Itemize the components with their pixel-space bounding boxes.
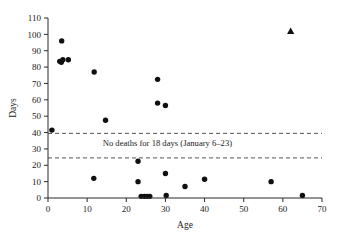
data-point — [66, 57, 71, 62]
y-tick-label-0: 0 — [37, 193, 42, 203]
x-tick-label-40: 40 — [200, 204, 210, 214]
scatter-plot-figure: 0102030405060708090100110 01020304050607… — [0, 0, 338, 248]
data-point — [49, 127, 54, 132]
y-tick-label-50: 50 — [32, 111, 42, 121]
x-axis-ticks: 010203040506070 — [46, 198, 327, 214]
data-point — [300, 193, 305, 198]
plot-canvas: 0102030405060708090100110 01020304050607… — [0, 0, 338, 248]
x-tick-label-30: 30 — [161, 204, 171, 214]
no-deaths-gap-label: No deaths for 18 days (January 6–23) — [103, 138, 232, 148]
data-point — [103, 118, 108, 123]
y-tick-label-90: 90 — [32, 46, 42, 56]
data-point-triangle — [287, 27, 294, 33]
x-tick-label-0: 0 — [46, 204, 51, 214]
y-tick-label-100: 100 — [28, 30, 42, 40]
data-point-layer — [49, 27, 305, 199]
data-point — [268, 179, 273, 184]
data-point — [163, 171, 168, 176]
x-tick-label-50: 50 — [239, 204, 249, 214]
data-point — [182, 184, 187, 189]
y-tick-label-70: 70 — [32, 79, 42, 89]
data-point — [91, 176, 96, 181]
y-tick-label-60: 60 — [32, 95, 42, 105]
figure-caption-strip — [0, 234, 338, 248]
x-tick-label-70: 70 — [318, 204, 328, 214]
y-axis-ticks: 0102030405060708090100110 — [28, 13, 49, 203]
y-tick-label-40: 40 — [32, 128, 42, 138]
y-tick-label-80: 80 — [32, 62, 42, 72]
data-point — [155, 100, 160, 105]
data-point — [60, 57, 65, 62]
x-tick-label-60: 60 — [278, 204, 288, 214]
data-point — [164, 193, 169, 198]
annotation-layer: No deaths for 18 days (January 6–23) — [103, 138, 232, 148]
y-tick-label-110: 110 — [28, 13, 42, 23]
y-axis-title: Days — [8, 98, 18, 118]
data-point — [135, 179, 140, 184]
data-point — [59, 38, 64, 43]
y-tick-label-30: 30 — [32, 144, 42, 154]
x-tick-label-10: 10 — [83, 204, 93, 214]
data-point — [91, 69, 96, 74]
data-point — [163, 103, 168, 108]
data-point — [202, 176, 207, 181]
axis-lines — [48, 18, 322, 198]
x-tick-label-20: 20 — [122, 204, 132, 214]
data-point — [135, 158, 140, 163]
y-tick-label-10: 10 — [32, 177, 42, 187]
x-axis-title: Age — [177, 220, 193, 230]
data-point — [155, 77, 160, 82]
y-tick-label-20: 20 — [32, 160, 42, 170]
